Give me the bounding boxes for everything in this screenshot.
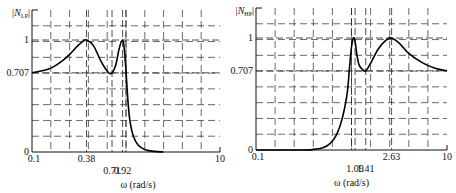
y-tick-label: 0.707 xyxy=(7,67,30,78)
x-mark-label: 2.63 xyxy=(383,151,401,162)
x-tick-label-max: 10 xyxy=(442,151,452,162)
x-tick-label-min: 0.1 xyxy=(28,153,41,164)
y-tick-label: 0.707 xyxy=(231,65,254,76)
x-axis-label: ω (rad/s) xyxy=(334,177,369,189)
x-axis-label: ω (rad/s) xyxy=(120,179,155,191)
y-tick-label: 1 xyxy=(24,34,29,45)
right-chart: |NHP|10.70700.1101.091.412.63ω (rad/s) xyxy=(231,5,453,189)
x-tick-label-min: 0.1 xyxy=(252,151,265,162)
y-axis-label: |NHP| xyxy=(235,5,254,17)
chart-canvas: |NLP|10.70700.1100.380.710.92ω (rad/s)|N… xyxy=(0,0,456,193)
x-mark-label: 0.92 xyxy=(114,165,132,176)
y-tick-label: 1 xyxy=(248,32,253,43)
x-mark-label: 0.38 xyxy=(78,153,96,164)
left-chart: |NLP|10.70700.1100.380.710.92ω (rad/s) xyxy=(7,7,226,191)
x-mark-label: 1.41 xyxy=(357,163,375,174)
y-axis-label: |NLP| xyxy=(12,7,30,19)
magnitude-curve xyxy=(32,40,163,152)
x-tick-label-max: 10 xyxy=(215,153,225,164)
